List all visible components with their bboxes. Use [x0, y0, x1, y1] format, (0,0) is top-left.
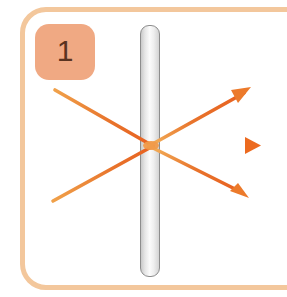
panel-number-label: 1: [57, 36, 74, 68]
vertical-barrier: [140, 25, 160, 277]
panel-number-badge: 1: [35, 24, 95, 80]
figure-root: 1: [0, 0, 287, 297]
